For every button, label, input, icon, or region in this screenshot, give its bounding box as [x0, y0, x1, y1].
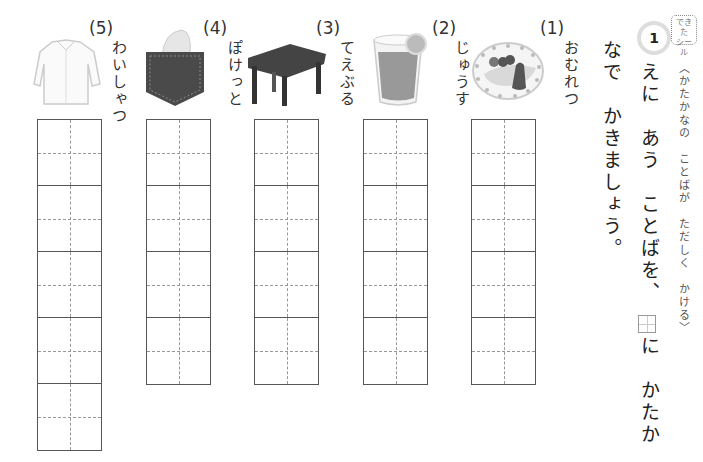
- item-2-number: (2): [432, 18, 456, 38]
- sticker-label-2: シール: [673, 38, 695, 58]
- item-5-word: わいしゃつ: [108, 40, 129, 125]
- juice-icon: [370, 30, 430, 108]
- table-icon: [246, 42, 328, 106]
- answer-cell[interactable]: [255, 318, 318, 384]
- answer-cell[interactable]: [38, 186, 101, 252]
- answer-cell[interactable]: [255, 120, 318, 186]
- omelette-icon: [470, 40, 546, 102]
- subtitle: 〈かたかなの ことばが ただしく かける〉: [675, 62, 691, 392]
- answer-cell[interactable]: [364, 120, 427, 186]
- item-1-answer-grid[interactable]: [471, 119, 536, 385]
- answer-cell[interactable]: [147, 186, 210, 252]
- answer-cell[interactable]: [147, 252, 210, 318]
- answer-box-icon: [638, 315, 656, 333]
- instruction-line1a: えに あう ことばを、: [636, 62, 663, 304]
- answer-cell[interactable]: [364, 186, 427, 252]
- answer-cell[interactable]: [147, 120, 210, 186]
- answer-cell[interactable]: [38, 120, 101, 186]
- item-2-answer-grid[interactable]: [363, 119, 428, 385]
- instruction-line1b: に かたか: [636, 336, 663, 446]
- item-4-answer-grid[interactable]: [146, 119, 211, 385]
- sticker-label-1: できた: [673, 18, 695, 38]
- answer-cell[interactable]: [472, 186, 535, 252]
- answer-cell[interactable]: [472, 120, 535, 186]
- item-4-word: ぽけっと: [224, 40, 245, 108]
- answer-cell[interactable]: [255, 186, 318, 252]
- instruction-line2: なで かきましょう。: [598, 40, 625, 260]
- item-3-number: (3): [316, 18, 340, 38]
- answer-cell[interactable]: [38, 252, 101, 318]
- answer-cell[interactable]: [147, 318, 210, 384]
- completion-sticker-slot: できた シール: [671, 15, 697, 45]
- item-4-number: (4): [203, 18, 227, 38]
- item-2-word: じゅうす: [451, 40, 472, 108]
- pocket-icon: [144, 26, 206, 108]
- answer-cell[interactable]: [38, 318, 101, 384]
- item-5-answer-grid[interactable]: [37, 119, 102, 451]
- answer-cell[interactable]: [255, 252, 318, 318]
- problem-number: 1: [649, 30, 659, 46]
- shirt-icon: [32, 38, 102, 108]
- answer-cell[interactable]: [364, 252, 427, 318]
- answer-cell[interactable]: [472, 318, 535, 384]
- problem-number-badge: 1: [641, 25, 667, 51]
- item-3-answer-grid[interactable]: [254, 119, 319, 385]
- answer-cell[interactable]: [38, 384, 101, 450]
- answer-cell[interactable]: [364, 318, 427, 384]
- item-5-number: (5): [89, 18, 113, 38]
- item-3-word: てえぶる: [336, 40, 357, 108]
- answer-cell[interactable]: [472, 252, 535, 318]
- item-1-word: おむれつ: [560, 40, 581, 108]
- item-1-number: (1): [540, 18, 564, 38]
